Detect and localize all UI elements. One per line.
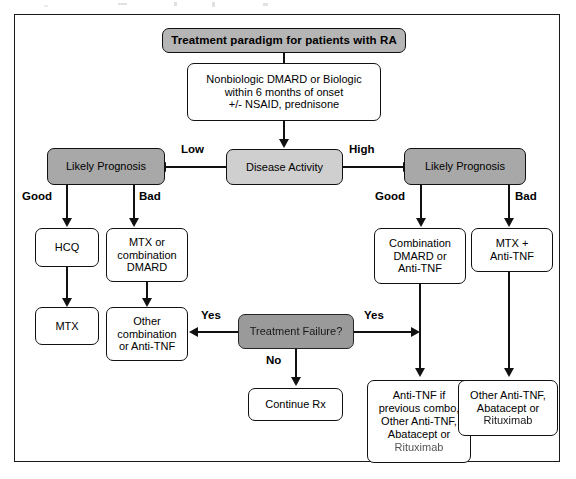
arrowhead-bad-left xyxy=(129,218,139,227)
antitnf-if-previous-line5: Rituximab xyxy=(395,441,444,453)
other-combination-line2: combination xyxy=(117,328,176,340)
node-mtx-or-combination: MTX or combination DMARD xyxy=(106,228,188,282)
diagram-frame: Treatment paradigm for patients with RA … xyxy=(14,14,560,462)
connector-failure-no xyxy=(295,349,297,380)
title-banner-label: Treatment paradigm for patients with RA xyxy=(168,34,400,48)
other-antitnf-line3: Rituximab xyxy=(484,414,533,426)
edge-label-yes-right: Yes xyxy=(364,309,384,321)
antitnf-if-previous-line2: previous combo, xyxy=(379,402,460,414)
connector-activity-to-prognosis-high xyxy=(343,166,404,168)
combination-dmard-line2: DMARD or xyxy=(393,250,446,262)
edge-label-bad-right: Bad xyxy=(515,190,537,202)
edge-label-good-right: Good xyxy=(375,190,405,202)
node-other-combination: Other combination or Anti-TNF xyxy=(106,307,188,361)
mtx-label: MTX xyxy=(52,320,81,333)
other-antitnf-line1: Other Anti-TNF, xyxy=(470,389,546,401)
connector-prognosis-high-good xyxy=(420,185,422,221)
other-combination-line3: or Anti-TNF xyxy=(119,340,175,352)
disease-activity-label: Disease Activity xyxy=(243,161,326,174)
edge-label-low: Low xyxy=(181,143,204,155)
connector-prognosis-low-good xyxy=(66,185,68,221)
node-initial-therapy: Nonbiologic DMARD or Biologic within 6 m… xyxy=(187,63,381,121)
arrowhead-good-left xyxy=(62,218,72,227)
edge-label-bad-left: Bad xyxy=(139,190,161,202)
node-prognosis-low: Likely Prognosis xyxy=(47,148,165,185)
node-mtx: MTX xyxy=(35,307,99,345)
antitnf-if-previous-line1: Anti-TNF if xyxy=(393,389,446,401)
arrowhead-combdmard-to-antitnf xyxy=(415,368,425,377)
arrowhead-no xyxy=(291,377,301,386)
node-title-banner: Treatment paradigm for patients with RA xyxy=(162,28,406,53)
arrowhead-bad-right xyxy=(504,218,514,227)
edge-label-yes-left: Yes xyxy=(201,309,221,321)
connector-title-to-initial xyxy=(283,53,285,63)
combination-dmard-line3: Anti-TNF xyxy=(398,262,442,274)
node-hcq: HCQ xyxy=(35,228,99,267)
other-combination-line1: Other xyxy=(133,315,161,327)
node-disease-activity: Disease Activity xyxy=(226,149,343,185)
connector-prognosis-low-bad xyxy=(133,185,135,221)
other-antitnf-line2: Abatacept or xyxy=(477,402,539,414)
treatment-failure-label: Treatment Failure? xyxy=(247,325,346,338)
connector-hcq-to-mtx xyxy=(66,267,68,301)
node-treatment-failure: Treatment Failure? xyxy=(238,314,354,349)
mtx-or-combination-line1: MTX or xyxy=(129,236,165,248)
mtx-plus-antitnf-line1: MTX + xyxy=(496,237,529,249)
arrowhead-good-right xyxy=(416,218,426,227)
node-continue-rx: Continue Rx xyxy=(248,388,343,421)
arrowhead-yes-left xyxy=(189,327,198,337)
connector-combdmard-to-antitnf xyxy=(419,284,421,371)
initial-therapy-line3: +/- NSAID, prednisone xyxy=(229,98,339,110)
mtx-or-combination-line3: DMARD xyxy=(127,261,167,273)
edge-label-high: High xyxy=(349,143,375,155)
scan-artifact-band xyxy=(0,0,576,13)
hcq-label: HCQ xyxy=(52,241,82,254)
arrowhead-hcq-to-mtx xyxy=(62,298,72,307)
connector-activity-to-prognosis-low xyxy=(165,166,226,168)
node-antitnf-if-previous: Anti-TNF if previous combo, Other Anti-T… xyxy=(367,380,471,463)
arrowhead-initial-to-activity xyxy=(279,139,289,148)
connector-failure-to-antitnf xyxy=(354,331,413,333)
node-combination-dmard: Combination DMARD or Anti-TNF xyxy=(374,228,466,284)
prognosis-high-label: Likely Prognosis xyxy=(422,160,508,173)
connector-failure-to-othercomb xyxy=(197,331,238,333)
mtx-plus-antitnf-line2: Anti-TNF xyxy=(490,250,534,262)
continue-rx-label: Continue Rx xyxy=(262,398,329,411)
mtx-or-combination-line2: combination xyxy=(117,249,176,261)
combination-dmard-line1: Combination xyxy=(389,237,451,249)
arrowhead-mtxcomb-to-othercomb xyxy=(142,298,152,307)
initial-therapy-line1: Nonbiologic DMARD or Biologic xyxy=(206,73,361,85)
antitnf-if-previous-line4: Abatacept or xyxy=(388,428,450,440)
node-mtx-plus-antitnf: MTX + Anti-TNF xyxy=(471,228,553,272)
node-prognosis-high: Likely Prognosis xyxy=(404,148,526,185)
initial-therapy-line2: within 6 months of onset xyxy=(225,86,344,98)
arrowhead-mtxantitnf-to-otherantitnf xyxy=(504,368,514,377)
connector-mtxantitnf-to-otherantitnf xyxy=(508,272,510,371)
node-other-antitnf: Other Anti-TNF, Abatacept or Rituximab xyxy=(458,380,558,436)
edge-label-no: No xyxy=(266,354,281,366)
prognosis-low-label: Likely Prognosis xyxy=(63,160,149,173)
connector-prognosis-high-bad xyxy=(508,185,510,221)
edge-label-good-left: Good xyxy=(22,190,52,202)
antitnf-if-previous-line3: Other Anti-TNF, xyxy=(381,415,457,427)
